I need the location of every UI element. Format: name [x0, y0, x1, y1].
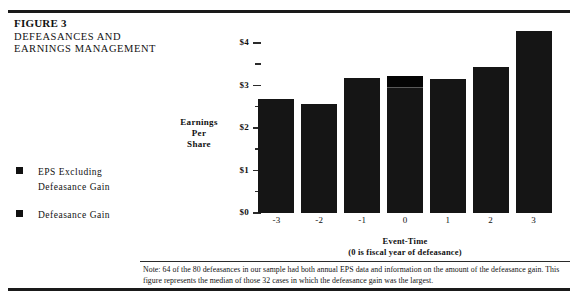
- legend-label-line-1: Defeasance Gain: [38, 208, 206, 223]
- defeasance-gain-swatch: [16, 210, 23, 217]
- x-axis-title-line-2: (0 is fiscal year of defeasance): [255, 247, 555, 258]
- chart-legend: EPS Excluding Defeasance Gain Defeasance…: [16, 165, 206, 236]
- x-axis-tick-label: -1: [344, 215, 380, 225]
- bar-segment: [387, 76, 423, 88]
- note-rule: [140, 261, 570, 262]
- x-axis-tick-label: 0: [387, 215, 423, 225]
- y-axis-tick-label: $4: [240, 37, 249, 47]
- y-axis-tick-label: $2: [240, 122, 249, 132]
- bar-series-container: [255, 22, 555, 213]
- legend-item-eps-excluding-defeasance-gain: EPS Excluding Defeasance Gain: [16, 165, 206, 195]
- legend-label-line-1: EPS Excluding: [38, 165, 206, 180]
- x-axis-title: Event-Time (0 is fiscal year of defeasan…: [255, 236, 555, 257]
- eps-excluding-defeasance-gain-swatch: [16, 167, 23, 174]
- bar-segment: [473, 67, 509, 213]
- x-axis-title-line-1: Event-Time: [255, 236, 555, 247]
- figure-title-line-2: EARNINGS MANAGEMENT: [14, 43, 214, 56]
- bar-segment: [516, 31, 552, 213]
- figure-root: FIGURE 3 DEFEASANCES AND EARNINGS MANAGE…: [0, 0, 578, 295]
- x-axis-tick-labels: -3-2-10123: [255, 215, 555, 229]
- bar-segment: [344, 78, 380, 213]
- legend-label-line-2: Defeasance Gain: [38, 180, 206, 195]
- x-axis-tick-label: -2: [301, 215, 337, 225]
- x-axis-baseline: [255, 212, 555, 213]
- y-axis-tick-label: $1: [240, 165, 249, 175]
- figure-title-block: FIGURE 3 DEFEASANCES AND EARNINGS MANAGE…: [14, 17, 214, 56]
- x-axis-tick-label: 1: [430, 215, 466, 225]
- x-axis-tick-label: 2: [473, 215, 509, 225]
- figure-label: FIGURE 3: [14, 17, 214, 30]
- x-axis-tick-label: -3: [258, 215, 294, 225]
- y-axis-tick-label: $0: [240, 207, 249, 217]
- figure-title-line-1: DEFEASANCES AND: [14, 31, 214, 44]
- figure-note: Note: 64 of the 80 defeasances in our sa…: [143, 265, 571, 286]
- bar-segment: [301, 104, 337, 213]
- bottom-rule: [8, 288, 570, 291]
- y-axis-tick-label: $3: [240, 80, 249, 90]
- x-axis-tick-label: 3: [516, 215, 552, 225]
- legend-item-defeasance-gain: Defeasance Gain: [16, 208, 206, 223]
- bar-segment: [430, 79, 466, 213]
- top-rule: [8, 10, 570, 13]
- bar-segment: [258, 99, 294, 213]
- plot-area: [255, 22, 555, 213]
- bar-segment: [387, 88, 423, 213]
